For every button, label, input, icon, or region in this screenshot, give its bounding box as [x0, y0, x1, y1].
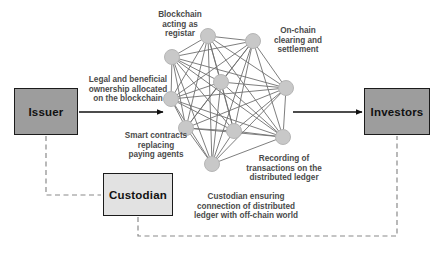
annotation-blockchain-registrar: Blockchain acting as registar — [143, 10, 217, 39]
network-node — [227, 124, 242, 139]
custodian-label: Custodian — [109, 189, 167, 201]
annotation-legal-ownership: Legal and beneficial ownership allocated… — [76, 75, 180, 104]
network-node — [205, 157, 220, 172]
diagram-canvas: Issuer Investors Custodian Blockchain ac… — [0, 0, 444, 253]
annotation-onchain-clearing: On-chain clearing and settlement — [262, 26, 334, 55]
dashed-issuer-to-custodian — [46, 136, 101, 195]
issuer-label: Issuer — [28, 106, 63, 118]
issuer-box[interactable]: Issuer — [14, 88, 78, 135]
annotation-smart-contracts: Smart contracts replacing paying agents — [117, 131, 195, 160]
custodian-box[interactable]: Custodian — [103, 173, 173, 216]
network-node — [276, 130, 291, 145]
network-node — [165, 50, 180, 65]
annotation-recording-transactions: Recording of transactions on the distrib… — [236, 154, 332, 183]
network-node — [246, 34, 261, 49]
annotation-custodian-ensuring: Custodian ensuring connection of distrib… — [182, 192, 310, 221]
network-node — [279, 81, 294, 96]
investors-box[interactable]: Investors — [364, 88, 430, 135]
investors-label: Investors — [371, 106, 424, 118]
network-node — [214, 75, 229, 90]
